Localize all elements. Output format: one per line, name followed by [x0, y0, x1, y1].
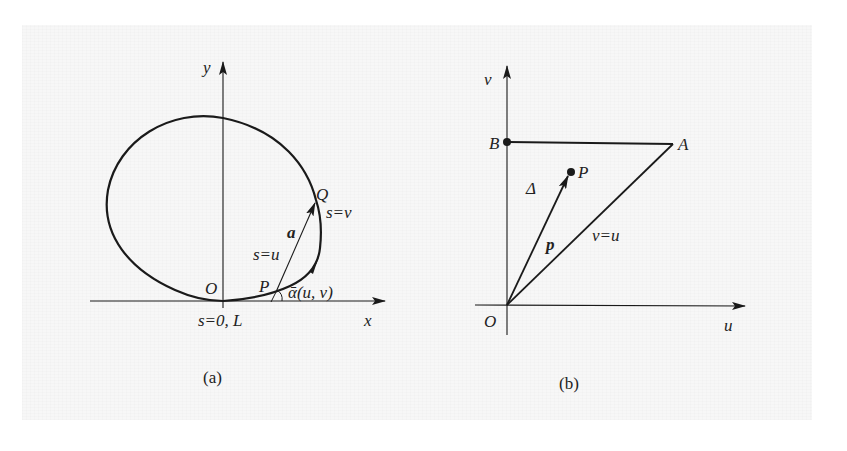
y-axis-label: y — [201, 58, 211, 77]
diagram-canvas: y x O P Q s=v a s=u ᾱ(u, v) s=0, L (a) v… — [0, 0, 847, 451]
figure-a: y x O P Q s=v a s=u ᾱ(u, v) s=0, L (a) — [90, 58, 385, 387]
vector-a — [276, 203, 315, 292]
caption-a: (a) — [203, 368, 222, 387]
point-p-label-a: P — [258, 277, 269, 296]
s-v-label: s=v — [326, 203, 352, 222]
point-p-label-b: P — [577, 163, 588, 182]
s-start-label: s=0, L — [198, 311, 243, 330]
point-a-label: A — [677, 135, 689, 154]
region-delta-label: Δ — [525, 179, 536, 198]
vector-a-label: a — [287, 223, 296, 242]
curve-direction-arrow-icon — [310, 256, 319, 274]
s-u-label: s=u — [253, 245, 280, 264]
vector-p-label: p — [544, 235, 555, 254]
figure-b: v u O B A P Δ p v=u (b) — [475, 66, 745, 393]
u-axis — [475, 305, 745, 306]
point-p-dot — [567, 168, 575, 176]
x-axis-label: x — [363, 311, 372, 330]
point-q-label: Q — [316, 185, 328, 204]
diagonal-v-equals-u — [507, 144, 673, 305]
u-axis-label: u — [724, 316, 733, 335]
edge-b-a — [507, 142, 673, 144]
diagonal-label: v=u — [592, 226, 620, 245]
point-b-dot — [503, 138, 511, 146]
point-b-label: B — [489, 134, 500, 153]
origin-label-b: O — [484, 312, 496, 331]
v-axis-label: v — [484, 70, 492, 89]
vector-p — [507, 176, 568, 305]
angle-label: ᾱ(u, v) — [288, 283, 333, 302]
origin-label-a: O — [205, 279, 217, 298]
caption-b: (b) — [559, 374, 579, 393]
closed-curve — [107, 116, 321, 301]
